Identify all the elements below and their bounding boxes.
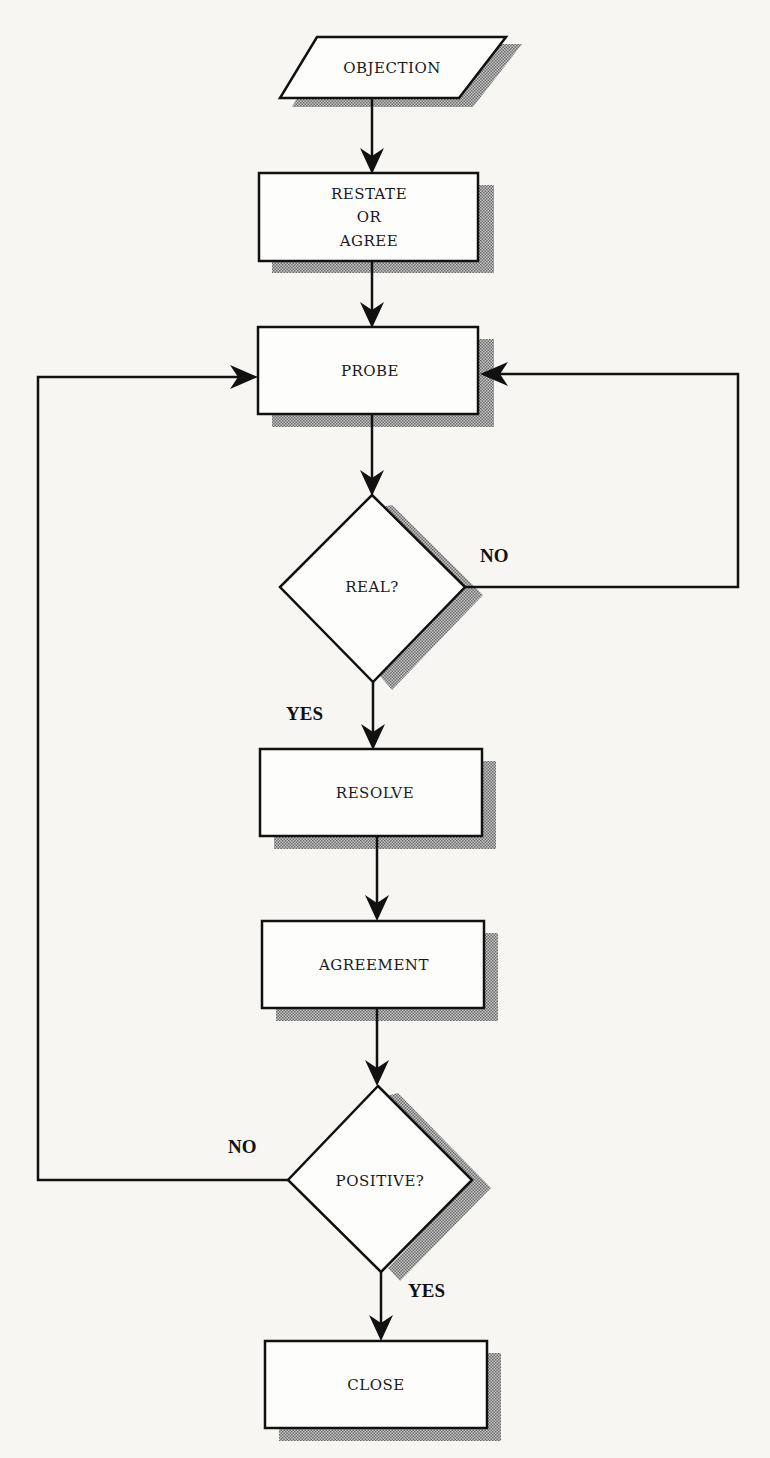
edge-real-no-probe: NO bbox=[465, 362, 738, 587]
node-resolve: RESOLVE bbox=[260, 749, 496, 849]
edge-label-real-no: NO bbox=[480, 545, 509, 566]
node-objection-label: OBJECTION bbox=[343, 59, 441, 77]
node-agreement-label: AGREEMENT bbox=[318, 956, 429, 974]
node-positive-label: POSITIVE? bbox=[336, 1172, 425, 1190]
edge-positive-no-probe: NO bbox=[38, 365, 288, 1180]
edge-label-positive-no: NO bbox=[228, 1136, 257, 1157]
node-close-label: CLOSE bbox=[347, 1376, 404, 1394]
edge-objection-restate bbox=[360, 98, 384, 174]
edge-positive-yes-close: YES bbox=[369, 1272, 445, 1341]
node-restate-label-line3: AGREE bbox=[339, 232, 399, 250]
node-restate-label-line1: RESTATE bbox=[331, 185, 407, 203]
node-real: REAL? bbox=[280, 495, 483, 690]
edge-real-yes-resolve: YES bbox=[286, 682, 385, 750]
node-close: CLOSE bbox=[265, 1341, 501, 1441]
node-restate: RESTATE OR AGREE bbox=[259, 173, 494, 273]
node-objection: OBJECTION bbox=[280, 37, 522, 107]
edge-label-real-yes: YES bbox=[286, 703, 323, 724]
edge-label-positive-yes: YES bbox=[408, 1280, 445, 1301]
flowchart-canvas: OBJECTION RESTATE OR AGREE PROBE REAL? bbox=[0, 0, 770, 1458]
node-agreement: AGREEMENT bbox=[262, 921, 498, 1021]
node-positive: POSITIVE? bbox=[288, 1086, 491, 1281]
node-probe-label: PROBE bbox=[341, 362, 399, 380]
node-real-label: REAL? bbox=[345, 578, 399, 596]
node-restate-label-line2: OR bbox=[357, 208, 382, 226]
node-probe: PROBE bbox=[258, 327, 494, 427]
node-resolve-label: RESOLVE bbox=[336, 784, 414, 802]
